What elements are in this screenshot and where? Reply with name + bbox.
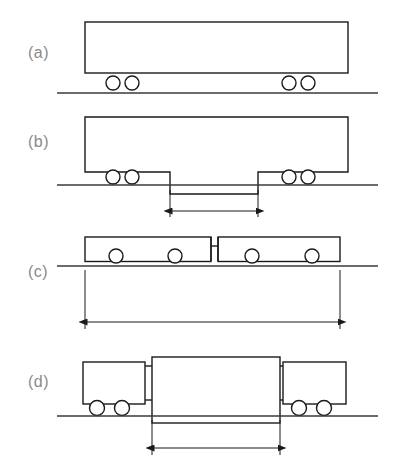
panel-c-wheel-4 [305, 249, 319, 263]
figure-container: (a) (b) (c) [0, 0, 394, 468]
panel-a-wheel-3 [282, 76, 296, 90]
panel-c-label: (c) [28, 263, 48, 280]
panel-b: (b) [28, 117, 378, 217]
panel-b-wheel-4 [301, 170, 315, 184]
panel-d: (d) [28, 357, 378, 455]
panel-d-end-body-right [283, 362, 346, 404]
panel-a-main-body [85, 22, 348, 73]
panel-d-coupling-left [145, 366, 152, 400]
panel-b-label: (b) [28, 133, 49, 150]
panel-d-centre-body [152, 357, 280, 423]
panel-c: (c) [28, 237, 378, 329]
panel-a-label: (a) [28, 44, 49, 61]
panel-c-dimension [85, 270, 340, 329]
panel-c-body-section-right [218, 237, 340, 262]
panel-a-wheel-1 [106, 76, 120, 90]
panel-a: (a) [28, 22, 378, 93]
panel-b-wheel-3 [282, 170, 296, 184]
panel-c-wheel-1 [109, 249, 123, 263]
panel-d-wheel-2 [115, 401, 130, 416]
panel-c-wheel-2 [168, 249, 182, 263]
panel-b-wheel-2 [125, 170, 139, 184]
panel-c-wheel-3 [245, 249, 259, 263]
panel-a-wheel-2 [125, 76, 139, 90]
panel-b-wheel-1 [106, 170, 120, 184]
panel-c-body-section-left [85, 237, 211, 262]
panel-d-wheel-3 [292, 401, 307, 416]
panel-d-wheel-1 [90, 401, 105, 416]
panel-c-articulation-joint [211, 237, 218, 261]
panel-d-end-body-left [83, 362, 145, 404]
panel-d-wheel-4 [317, 401, 332, 416]
panel-a-wheel-4 [301, 76, 315, 90]
vehicle-configuration-diagram: (a) (b) (c) [0, 0, 394, 468]
panel-d-label: (d) [28, 373, 49, 390]
panel-d-dimension [152, 420, 280, 455]
